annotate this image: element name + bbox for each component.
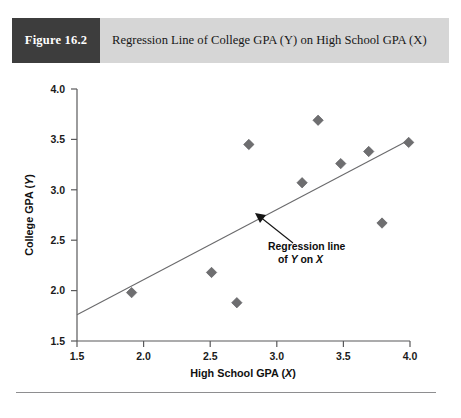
data-point	[232, 297, 242, 307]
figure-caption-text: Regression Line of College GPA (Y) on Hi…	[100, 18, 449, 63]
x-axis-title-close: )	[292, 367, 296, 379]
data-point	[313, 115, 323, 125]
regression-annotation-arrow	[255, 213, 293, 243]
scatter-plot: 1.52.02.53.03.54.0 1.52.02.53.03.54.0 Re…	[0, 63, 461, 383]
x-tick-label: 3.5	[336, 350, 351, 362]
regression-line	[77, 139, 410, 314]
y-tick-label: 3.0	[50, 184, 65, 196]
data-point	[126, 287, 136, 297]
y-axis-title-close: )	[23, 174, 35, 178]
y-tick-label: 1.5	[50, 335, 65, 347]
footer-divider	[16, 392, 436, 393]
y-tick-label: 2.0	[50, 284, 65, 296]
data-point	[244, 139, 254, 149]
y-tick-label: 4.0	[50, 83, 65, 95]
figure-caption-bar: Figure 16.2 Regression Line of College G…	[12, 18, 449, 63]
axis-lines	[77, 89, 410, 341]
y-tick-label: 2.5	[50, 234, 65, 246]
figure-number-block: Figure 16.2	[12, 18, 100, 63]
data-point-group	[126, 115, 413, 308]
data-point	[377, 218, 387, 228]
x-tick-label: 2.5	[203, 350, 218, 362]
annotation-line-2: of Y on X	[278, 254, 324, 265]
annotation-arrowhead	[255, 213, 266, 223]
x-axis-ticks: 1.52.02.53.03.54.0	[70, 341, 418, 362]
data-point	[403, 137, 413, 147]
data-point	[297, 178, 307, 188]
data-point	[206, 267, 216, 277]
annotation-of: of	[278, 254, 291, 265]
data-point	[336, 158, 346, 168]
x-axis-title: High School GPA (X)	[190, 367, 296, 379]
x-tick-label: 3.0	[269, 350, 284, 362]
y-axis-title-text: College GPA (	[23, 185, 35, 256]
y-tick-label: 3.5	[50, 133, 65, 145]
annotation-var-x: X	[315, 254, 324, 265]
annotation-on: on	[298, 254, 316, 265]
y-axis-ticks: 1.52.02.53.03.54.0	[50, 83, 77, 347]
y-axis-title: College GPA (Y)	[23, 174, 35, 256]
x-tick-label: 1.5	[70, 350, 85, 362]
chart-container: 1.52.02.53.03.54.0 1.52.02.53.03.54.0 Re…	[0, 63, 461, 383]
x-tick-label: 2.0	[136, 350, 151, 362]
annotation-leader-line	[259, 216, 293, 243]
data-point	[364, 146, 374, 156]
annotation-line-1: Regression line	[268, 241, 346, 252]
x-axis-title-text: High School GPA (	[190, 367, 285, 379]
x-tick-label: 4.0	[403, 350, 418, 362]
